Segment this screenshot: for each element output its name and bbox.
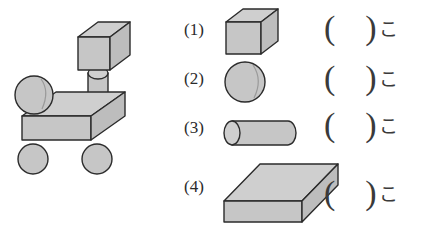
sphere-solid-icon	[222, 58, 272, 106]
sphere-wheel-rear-icon	[82, 144, 112, 174]
counter-unit-3: こ	[379, 117, 398, 136]
close-paren-2: )	[365, 61, 376, 95]
figure-drawing	[0, 0, 180, 228]
open-paren-1: (	[324, 11, 335, 45]
worksheet-page: (1) ( ) こ (2)	[0, 0, 435, 228]
answer-blank-4[interactable]: ( ) こ	[324, 176, 398, 210]
close-paren-3: )	[365, 108, 376, 142]
answer-blank-3[interactable]: ( ) こ	[324, 108, 398, 142]
open-paren-4: (	[324, 176, 335, 210]
close-paren-1: )	[365, 11, 376, 45]
answer-blank-2[interactable]: ( ) こ	[324, 61, 398, 95]
list-item: (3) ( ) こ	[182, 104, 435, 152]
cube-head-icon	[78, 22, 130, 70]
question-item-list: (1) ( ) こ (2)	[182, 0, 435, 228]
item-number-4: (4)	[184, 177, 204, 197]
item-number-1: (1)	[184, 20, 204, 40]
counter-unit-4: こ	[379, 185, 398, 204]
open-paren-2: (	[324, 61, 335, 95]
close-paren-4: )	[365, 176, 376, 210]
list-item: (4) ( ) こ	[182, 152, 435, 228]
counter-unit-2: こ	[379, 70, 398, 89]
item-number-2: (2)	[184, 69, 204, 89]
composite-solid-figure	[0, 0, 180, 228]
cube-solid-icon	[222, 6, 284, 58]
cylinder-solid-icon	[220, 116, 302, 150]
list-item: (1) ( ) こ	[182, 0, 435, 56]
counter-unit-1: こ	[379, 20, 398, 39]
open-paren-3: (	[324, 108, 335, 142]
list-item: (2) ( ) こ	[182, 53, 435, 103]
sphere-left-icon	[15, 76, 53, 114]
item-number-3: (3)	[184, 118, 204, 138]
answer-blank-1[interactable]: ( ) こ	[324, 11, 398, 45]
sphere-wheel-front-icon	[18, 144, 48, 174]
